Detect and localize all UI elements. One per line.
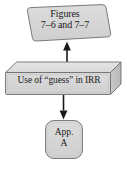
figures-label: Figures 7–6 and 7–7	[30, 9, 100, 30]
flowchart-diagram: Figures 7–6 and 7–7 Use of “guess” in IR…	[0, 0, 127, 169]
figures-label-line1: Figures	[50, 8, 79, 19]
app-a-label-line1: App.	[55, 127, 73, 137]
connector-guess-to-figures	[63, 42, 71, 63]
app-a-label: App. A	[45, 128, 83, 149]
arrow-head-up	[63, 42, 71, 51]
guess-label-line1: Use of “guess” in IRR	[18, 75, 101, 85]
connector-guess-to-app-a	[60, 95, 68, 120]
arrow-head-down	[60, 111, 68, 120]
guess-label: Use of “guess” in IRR	[8, 76, 110, 86]
app-a-label-line2: A	[45, 139, 83, 149]
figures-label-line2: 7–6 and 7–7	[30, 20, 100, 31]
guess-top-face	[6, 62, 122, 73]
